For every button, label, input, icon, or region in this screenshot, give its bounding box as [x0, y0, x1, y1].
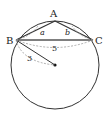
radius-bo: [16, 40, 55, 65]
label-b-vertex: B: [6, 35, 13, 46]
label-a-vertex: A: [49, 8, 58, 19]
side-ac: [55, 21, 93, 40]
label-side-bc: 5: [52, 44, 57, 53]
geometry-diagram: A B C a b 5 3: [0, 0, 110, 120]
label-c-vertex: C: [95, 35, 103, 46]
label-side-b: b: [65, 28, 70, 37]
label-side-a: a: [40, 28, 45, 37]
label-radius: 3: [27, 54, 32, 63]
side-ab: [16, 21, 55, 40]
